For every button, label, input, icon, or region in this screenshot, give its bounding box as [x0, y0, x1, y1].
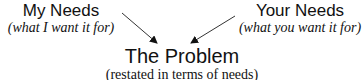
left-node: My Needs (what I want it for) [2, 2, 120, 36]
left-title: My Needs [2, 2, 120, 20]
left-subtitle: (what I want it for) [2, 20, 120, 36]
right-arrow [191, 16, 235, 43]
left-arrow [122, 13, 157, 43]
center-title: The Problem [92, 45, 272, 67]
right-subtitle: (what you want it for) [236, 20, 364, 36]
right-node: Your Needs (what you want it for) [236, 2, 364, 36]
center-subtitle: (restated in terms of needs) [92, 67, 272, 80]
center-node: The Problem (restated in terms of needs) [92, 45, 272, 80]
right-title: Your Needs [236, 2, 364, 20]
